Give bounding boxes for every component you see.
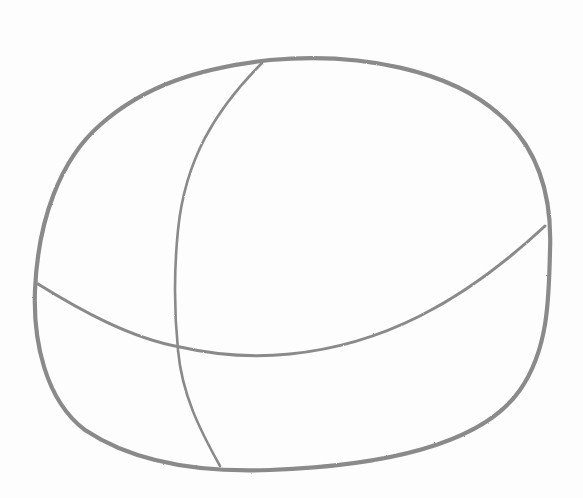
sketch-canvas: Pencil sketch of a rounded, slightly squ… xyxy=(0,0,583,498)
pencil-sketch xyxy=(0,0,583,498)
outline-shape xyxy=(35,58,550,470)
horizontal-guide-curve xyxy=(38,226,545,356)
vertical-guide-curve xyxy=(175,63,262,466)
